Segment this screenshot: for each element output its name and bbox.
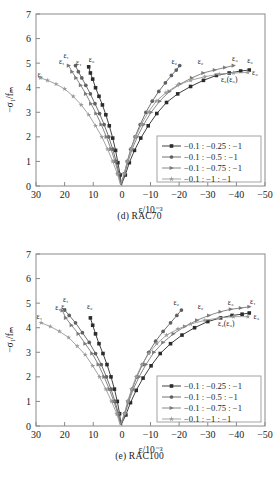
data-point-marker-circle	[170, 74, 174, 78]
annotation-label: ε₃	[228, 298, 234, 307]
data-point-marker-circle	[180, 308, 184, 312]
data-point-marker-circle	[80, 76, 84, 80]
data-point-marker-square	[109, 375, 113, 379]
data-point-marker-square	[111, 136, 115, 140]
x-tick-label: −40	[229, 189, 245, 200]
data-point-marker-circle	[150, 99, 154, 103]
chart-panel-rac70: 3020100−10−20−30−40−5001234567ε/10⁻³−σ₁/…	[0, 0, 279, 240]
data-point-marker-square	[91, 77, 95, 81]
data-point-marker-square	[193, 326, 197, 330]
data-point-marker-square	[176, 92, 180, 96]
data-point-marker-square	[146, 124, 150, 128]
x-tick-label: −40	[229, 429, 245, 440]
legend-label-1: −0.1 : −0.5 : −1	[184, 392, 238, 402]
data-point-marker-square	[104, 113, 108, 117]
data-point-marker-square	[155, 112, 159, 116]
legend-label-0: −0.1 : −0.25 : −1	[184, 381, 242, 391]
data-point-marker-triangle	[144, 363, 148, 367]
data-point-marker-circle	[178, 64, 182, 68]
data-point-marker-star	[97, 374, 102, 379]
data-point-marker-square	[89, 71, 93, 75]
x-tick-label: −30	[200, 189, 216, 200]
data-point-marker-circle	[170, 395, 174, 399]
annotation-label: ε₂(ε₃)	[221, 75, 238, 84]
data-point-marker-square	[202, 79, 206, 83]
annotation-label: ε₂	[87, 302, 93, 311]
data-point-marker-triangle	[223, 66, 227, 70]
y-tick-label: 3	[26, 107, 31, 118]
data-point-marker-square	[97, 95, 101, 99]
y-tick-label: 3	[26, 347, 31, 358]
data-point-marker-square	[94, 332, 98, 336]
annotation-label: ε₁	[76, 58, 82, 67]
x-tick-label: −50	[257, 189, 273, 200]
data-point-marker-star	[188, 321, 193, 326]
data-point-marker-triangle	[83, 342, 87, 346]
data-point-marker-square	[165, 101, 169, 105]
x-tick-label: 10	[88, 189, 98, 200]
annotation-label: ε₂	[171, 57, 177, 66]
data-point-marker-square	[89, 316, 93, 320]
x-tick-label: −10	[143, 189, 159, 200]
annotation-label: ε₂(ε₃)	[218, 319, 235, 328]
annotation-label: ε₁	[250, 297, 256, 306]
data-point-marker-triangle	[67, 64, 71, 68]
legend-label-1: −0.1 : −0.5 : −1	[184, 152, 238, 162]
data-point-marker-square	[180, 333, 184, 337]
y-tick-label: 1	[26, 396, 31, 407]
data-point-marker-triangle	[70, 70, 74, 74]
data-point-marker-triangle	[213, 68, 217, 72]
annotation-label: ε₃	[232, 54, 238, 63]
data-point-marker-square	[107, 124, 111, 128]
data-point-marker-triangle	[229, 307, 233, 311]
data-point-marker-triangle	[64, 316, 68, 320]
y-tick-label: 2	[26, 371, 31, 382]
data-point-marker-circle	[161, 330, 165, 334]
y-axis-title: −σ₁/fₘ	[5, 327, 15, 353]
annotation-label: ε₁	[63, 51, 69, 60]
data-point-marker-square	[141, 376, 145, 380]
y-tick-label: 5	[26, 298, 31, 309]
data-point-marker-triangle	[70, 323, 74, 327]
legend-label-0: −0.1 : −0.25 : −1	[184, 141, 242, 151]
legend-label-3: −0.1 : −1 : −1	[184, 414, 231, 424]
annotation-label: ε₃	[254, 312, 260, 321]
panel-caption-rac100: (e) RAC100	[0, 451, 279, 461]
data-point-marker-star	[99, 134, 104, 139]
data-point-marker-triangle	[137, 375, 141, 379]
data-point-marker-star	[45, 78, 50, 83]
annotation-label: ε₃	[252, 68, 258, 77]
data-point-marker-square	[170, 384, 174, 388]
data-point-marker-square	[158, 352, 162, 356]
chart-svg-rac70: 3020100−10−20−30−40−5001234567ε/10⁻³−σ₁/…	[0, 0, 279, 215]
data-point-marker-triangle	[90, 351, 94, 355]
data-point-marker-square	[101, 352, 105, 356]
data-point-marker-square	[97, 342, 101, 346]
data-point-marker-square	[113, 387, 117, 391]
data-point-marker-circle	[175, 314, 179, 318]
data-point-marker-triangle	[218, 310, 222, 314]
x-tick-label: −20	[171, 429, 187, 440]
data-point-marker-square	[189, 85, 193, 89]
data-point-marker-square	[169, 342, 173, 346]
y-tick-label: 2	[26, 131, 31, 142]
x-tick-label: 30	[31, 429, 41, 440]
data-point-marker-square	[87, 65, 91, 69]
data-point-marker-circle	[89, 92, 93, 96]
chart-svg-rac100: 3020100−10−20−30−40−5001234567ε/10⁻³−σ₁/…	[0, 240, 279, 455]
data-point-marker-circle	[81, 331, 85, 335]
x-tick-label: 20	[60, 429, 70, 440]
y-tick-label: 6	[26, 273, 31, 284]
data-point-marker-star	[202, 74, 207, 79]
data-point-marker-circle	[170, 155, 174, 159]
data-point-marker-circle	[157, 90, 161, 94]
x-tick-label: 0	[119, 429, 124, 440]
annotation-label: ε₁	[37, 312, 43, 321]
data-point-marker-circle	[174, 68, 178, 72]
x-tick-label: −10	[143, 429, 159, 440]
data-point-marker-circle	[84, 83, 88, 87]
data-point-marker-square	[91, 323, 95, 327]
data-point-marker-square	[149, 364, 153, 368]
data-point-marker-square	[94, 86, 98, 90]
y-axis-title: −σ₁/fₘ	[5, 87, 15, 113]
